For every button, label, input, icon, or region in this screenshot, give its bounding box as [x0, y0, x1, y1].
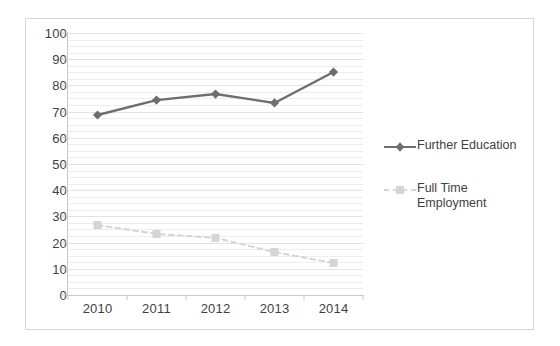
y-tick-label: 10	[5, 262, 67, 275]
y-tick-label: 90	[5, 53, 67, 66]
y-tick-mark	[62, 295, 67, 296]
y-tick-label: 0	[5, 289, 67, 302]
y-tick-mark	[62, 242, 67, 243]
x-axis-line	[67, 295, 364, 296]
y-tick-mark	[62, 190, 67, 191]
x-tick-label: 2012	[201, 302, 231, 316]
x-tick-mark	[245, 295, 246, 300]
x-tick-label: 2014	[319, 302, 349, 316]
y-tick-label: 30	[5, 210, 67, 223]
y-axis-ticks: 1009080706050403020100	[0, 0, 67, 346]
y-tick-label: 40	[5, 184, 67, 197]
legend-item-full-time-employment: Full Time Employment	[383, 181, 528, 211]
y-tick-mark	[62, 85, 67, 86]
chart-screenshot: 1009080706050403020100 20102011201220132…	[0, 0, 560, 346]
y-axis-line	[67, 32, 68, 296]
legend-key-diamond-icon	[383, 139, 417, 155]
y-tick-mark	[62, 33, 67, 34]
y-tick-label: 80	[5, 79, 67, 92]
plot-area	[68, 33, 363, 295]
x-tick-label: 2013	[260, 302, 290, 316]
x-tick-mark	[186, 295, 187, 300]
y-tick-mark	[62, 268, 67, 269]
legend-key-square-icon	[383, 182, 417, 198]
x-tick-mark	[127, 295, 128, 300]
legend-item-further-education: Further Education	[383, 138, 528, 155]
y-tick-mark	[62, 111, 67, 112]
y-tick-mark	[62, 164, 67, 165]
y-tick-mark	[62, 137, 67, 138]
y-tick-label: 100	[5, 27, 67, 40]
y-tick-label: 70	[5, 105, 67, 118]
x-tick-mark	[68, 295, 69, 300]
y-tick-mark	[62, 216, 67, 217]
x-tick-label: 2011	[142, 302, 171, 316]
x-tick-mark	[304, 295, 305, 300]
legend-label-further-education: Further Education	[417, 138, 516, 153]
minor-gridlines	[68, 33, 363, 295]
x-tick-label: 2010	[83, 302, 113, 316]
y-tick-label: 20	[5, 236, 67, 249]
x-tick-mark	[363, 295, 364, 300]
y-tick-label: 50	[5, 158, 67, 171]
chart-legend: Further Education Full Time Employment	[383, 138, 528, 237]
y-tick-label: 60	[5, 131, 67, 144]
y-tick-mark	[62, 59, 67, 60]
legend-label-full-time-employment: Full Time Employment	[417, 181, 528, 211]
major-gridlines	[68, 33, 363, 295]
